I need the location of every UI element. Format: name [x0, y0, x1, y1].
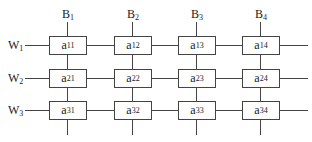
cell-a24: a24 — [242, 69, 280, 88]
cell-a32: a32 — [114, 101, 152, 120]
bit-line-label-3: B3 — [191, 8, 203, 24]
bit-line-label-1: B1 — [62, 8, 74, 24]
word-line-label-1: W1 — [8, 39, 23, 55]
cell-a12: a12 — [114, 36, 152, 55]
cell-a13: a13 — [178, 36, 216, 55]
cell-a11: a11 — [49, 36, 87, 55]
cell-a34: a34 — [242, 101, 280, 120]
bit-line-label-4: B4 — [255, 8, 267, 24]
cell-a33: a33 — [178, 101, 216, 120]
cell-a22: a22 — [114, 69, 152, 88]
word-line-label-3: W3 — [8, 104, 23, 120]
word-line-label-2: W2 — [8, 72, 23, 88]
cell-a21: a21 — [49, 69, 87, 88]
cell-a23: a23 — [178, 69, 216, 88]
bit-line-label-2: B2 — [127, 8, 139, 24]
cell-a31: a31 — [49, 101, 87, 120]
cell-a14: a14 — [242, 36, 280, 55]
